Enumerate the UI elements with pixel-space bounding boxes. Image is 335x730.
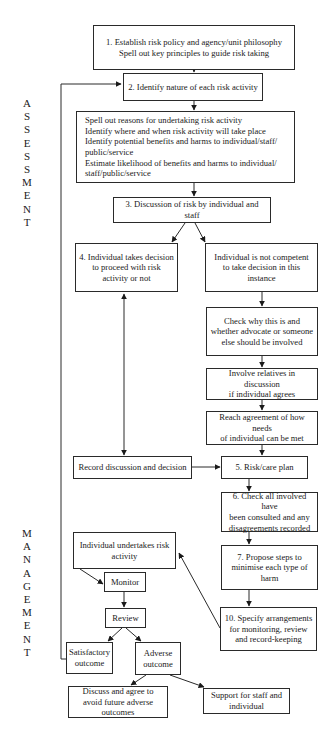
adverse-box: Adverse outcome (135, 642, 181, 675)
review-box: Review (105, 608, 146, 628)
letter: T (20, 646, 34, 659)
reach-agreement-text: Reach agreement of how needs of individu… (210, 412, 314, 444)
details-text: Spell out reasons for undertaking risk a… (85, 115, 277, 179)
letter: N (20, 203, 34, 216)
details-box: Spell out reasons for undertaking risk a… (76, 111, 295, 183)
letter: A (20, 567, 34, 580)
assessment-label: A S S E S S M E N T (20, 97, 34, 229)
letter: S (20, 110, 34, 123)
step4-box: 4. Individual takes decision to proceed … (75, 243, 178, 292)
step2-box: 2. Identify nature of each risk activity (123, 73, 263, 101)
letter: G (20, 580, 34, 593)
letter: M (20, 176, 34, 189)
letter: E (20, 189, 34, 202)
support-box: Support for staff and individual (203, 688, 290, 714)
step6-box: 6. Check all involved have been consulte… (221, 492, 318, 532)
letter: T (20, 216, 34, 229)
letter: S (20, 123, 34, 136)
step7-text: 7. Propose steps to minimise each type o… (231, 552, 307, 584)
not-competent-box: Individual is not competent to take deci… (205, 243, 318, 292)
letter: E (20, 593, 34, 606)
record-discussion-box: Record discussion and decision (73, 456, 192, 479)
check-why-text: Check why this is and whether advocate o… (211, 316, 313, 348)
step6-text: 6. Check all involved have been consulte… (225, 491, 314, 533)
reach-agreement-box: Reach agreement of how needs of individu… (206, 411, 318, 445)
not-competent-text: Individual is not competent to take deci… (214, 252, 308, 284)
monitor-text: Monitor (111, 577, 139, 588)
step10-text: 10. Specify arrangements for monitoring,… (225, 613, 313, 645)
involve-relatives-text: Involve relatives in discussion if indiv… (210, 368, 314, 400)
adverse-text: Adverse outcome (143, 648, 173, 669)
letter: S (20, 150, 34, 163)
letter: M (20, 606, 34, 619)
satisfactory-box: Satisfactory outcome (66, 642, 113, 674)
check-why-box: Check why this is and whether advocate o… (206, 307, 318, 356)
letter: N (20, 553, 34, 566)
undertakes-box: Individual undertakes risk activity (73, 532, 176, 569)
letter: S (20, 163, 34, 176)
review-text: Review (112, 613, 138, 624)
letter: N (20, 633, 34, 646)
step7-box: 7. Propose steps to minimise each type o… (221, 545, 318, 590)
letter: E (20, 137, 34, 150)
letter: A (20, 540, 34, 553)
step3-text: 3. Discussion of risk by individual and … (117, 199, 267, 220)
step5-text: 5. Risk/care plan (236, 462, 294, 473)
satisfactory-text: Satisfactory outcome (69, 647, 110, 668)
step5-box: 5. Risk/care plan (221, 456, 308, 479)
step3-box: 3. Discussion of risk by individual and … (113, 197, 271, 223)
monitor-box: Monitor (104, 572, 146, 592)
letter: A (20, 97, 34, 110)
management-label: M A N A G E M E N T (20, 527, 34, 659)
discuss-agree-text: Discuss and agree to avoid future advers… (83, 686, 154, 718)
step1-box: 1. Establish risk policy and agency/unit… (93, 25, 295, 70)
letter: M (20, 527, 34, 540)
discuss-agree-box: Discuss and agree to avoid future advers… (68, 686, 168, 718)
involve-relatives-box: Involve relatives in discussion if indiv… (206, 368, 318, 400)
step4-text: 4. Individual takes decision to proceed … (79, 252, 174, 284)
step10-box: 10. Specify arrangements for monitoring,… (220, 607, 317, 651)
step1-text: 1. Establish risk policy and agency/unit… (106, 37, 282, 58)
record-discussion-text: Record discussion and decision (78, 462, 186, 473)
letter: E (20, 619, 34, 632)
support-text: Support for staff and individual (211, 690, 282, 711)
undertakes-text: Individual undertakes risk activity (80, 540, 170, 561)
step2-text: 2. Identify nature of each risk activity (128, 82, 258, 93)
